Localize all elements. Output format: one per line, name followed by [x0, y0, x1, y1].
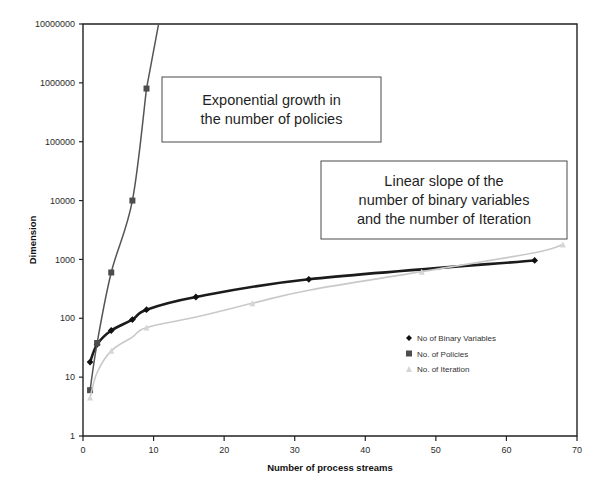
square-marker [94, 340, 100, 346]
log-line-chart: 110100100010000100000100000010000000 010… [0, 0, 607, 501]
x-tick-label: 50 [431, 445, 441, 455]
square-marker [129, 198, 135, 204]
annotation-exponential-growth: Exponential growth inthe number of polic… [162, 77, 381, 142]
x-tick-label: 60 [501, 445, 511, 455]
annotation-line: Exponential growth in [202, 92, 341, 108]
diamond-marker [143, 306, 150, 313]
square-marker [144, 86, 150, 92]
y-axis: 110100100010000100000100000010000000 [35, 19, 83, 441]
y-tick-label: 100 [60, 313, 75, 323]
legend-item: No of Binary Variables [406, 334, 496, 343]
chart-legend: No of Binary VariablesNo. of PoliciesNo.… [406, 334, 496, 374]
x-tick-label: 20 [219, 445, 229, 455]
series-line [90, 244, 563, 397]
legend-label: No. of Policies [417, 350, 468, 359]
diamond-marker [305, 276, 312, 283]
diamond-marker [87, 359, 94, 366]
y-tick-label: 100000 [45, 137, 75, 147]
x-tick-label: 70 [572, 445, 582, 455]
y-tick-label: 10000000 [35, 19, 75, 29]
series-line [90, 260, 535, 362]
x-tick-label: 0 [80, 445, 85, 455]
y-tick-label: 10 [65, 372, 75, 382]
y-tick-label: 1000000 [40, 78, 75, 88]
annotation-line: Linear slope of the [384, 173, 503, 189]
y-axis-title: Dimension [27, 216, 38, 265]
chart-container: 110100100010000100000100000010000000 010… [0, 0, 607, 501]
legend-label: No. of Iteration [417, 365, 469, 374]
diamond-marker [531, 257, 538, 264]
diamond-marker [193, 294, 200, 301]
triangle-marker [406, 366, 412, 372]
x-tick-label: 30 [290, 445, 300, 455]
annotation-linear-slope: Linear slope of thenumber of binary vari… [321, 161, 567, 239]
series-no-of-policies [87, 6, 162, 393]
square-marker [406, 351, 412, 357]
legend-label: No of Binary Variables [417, 334, 496, 343]
y-tick-label: 1000 [55, 255, 75, 265]
annotation-box [162, 77, 381, 142]
y-tick-label: 10000 [50, 196, 75, 206]
series-no-of-iteration [87, 241, 566, 400]
x-tick-label: 40 [360, 445, 370, 455]
annotation-line: the number of policies [201, 111, 343, 127]
series-line [90, 6, 162, 390]
legend-item: No. of Iteration [406, 365, 469, 374]
legend-item: No. of Policies [406, 350, 468, 359]
x-tick-label: 10 [149, 445, 159, 455]
annotation-line: and the number of Iteration [357, 211, 531, 227]
series-no-of-binary-variables [87, 257, 538, 365]
diamond-marker [406, 335, 412, 341]
x-axis-title: Number of process streams [267, 462, 393, 473]
x-axis: 010203040506070 [80, 436, 582, 455]
triangle-marker [87, 395, 93, 401]
square-marker [108, 269, 114, 275]
annotations-group: Exponential growth inthe number of polic… [162, 77, 567, 239]
y-tick-label: 1 [70, 431, 75, 441]
annotation-line: number of binary variables [359, 192, 530, 208]
